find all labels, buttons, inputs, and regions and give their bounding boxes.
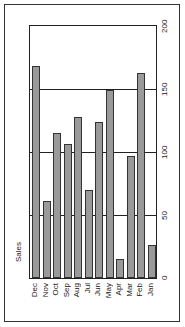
x-tick-label: Dec [30, 283, 39, 297]
bar-feb [137, 73, 145, 278]
bar-jul [85, 190, 93, 278]
bar-mar [127, 156, 135, 278]
y-tick-label: 200 [160, 20, 169, 33]
y-axis-label: Sales [14, 242, 23, 262]
y-tick-label: 100 [160, 146, 169, 159]
plot-area [29, 25, 157, 279]
bar-jun [95, 122, 103, 278]
bar-aug [74, 117, 82, 278]
x-tick-label: Jun [93, 283, 102, 296]
y-tick-label: 50 [160, 211, 169, 220]
y-tick-label: 150 [160, 83, 169, 96]
x-tick-label: Sep [62, 283, 71, 297]
x-tick-label: Mar [125, 283, 134, 297]
x-tick-label: Jan [146, 283, 155, 296]
x-tick-label: Oct [51, 283, 60, 295]
x-tick-label: Apr [114, 283, 123, 295]
bar-may [106, 90, 114, 278]
x-tick-label: Feb [135, 283, 144, 297]
x-tick-label: May [104, 283, 113, 298]
bar-dec [32, 66, 40, 278]
y-tick-label: 0 [160, 276, 169, 280]
x-tick-label: Nov [41, 283, 50, 297]
bar-jan [148, 245, 156, 278]
x-tick-label: Aug [72, 283, 81, 297]
bar-sep [64, 144, 72, 278]
bar-nov [43, 201, 51, 278]
x-tick-label: Jul [83, 283, 92, 293]
bar-apr [116, 259, 124, 278]
bar-oct [53, 133, 61, 278]
